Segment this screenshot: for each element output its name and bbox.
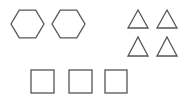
triangle-shape xyxy=(128,37,148,56)
square-shape xyxy=(105,70,127,93)
shapes-diagram xyxy=(0,0,191,98)
triangle-shape xyxy=(157,37,177,56)
hexagon-shape xyxy=(52,10,85,38)
square-group xyxy=(31,70,127,93)
triangle-shape xyxy=(157,10,177,28)
square-shape xyxy=(31,70,54,93)
hexagon-group xyxy=(11,10,85,38)
triangle-shape xyxy=(128,10,148,28)
hexagon-shape xyxy=(11,10,44,38)
square-shape xyxy=(69,70,92,93)
triangle-group xyxy=(128,10,177,56)
